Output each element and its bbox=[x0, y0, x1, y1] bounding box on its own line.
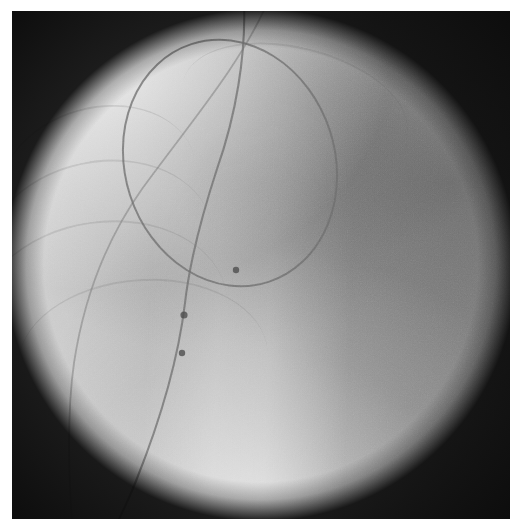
radiograph-frame bbox=[12, 11, 510, 519]
detector-vignette bbox=[12, 11, 510, 519]
fluoroscopy-image-viewer: Fluoroscopic image — circular mapping ca… bbox=[0, 0, 522, 531]
